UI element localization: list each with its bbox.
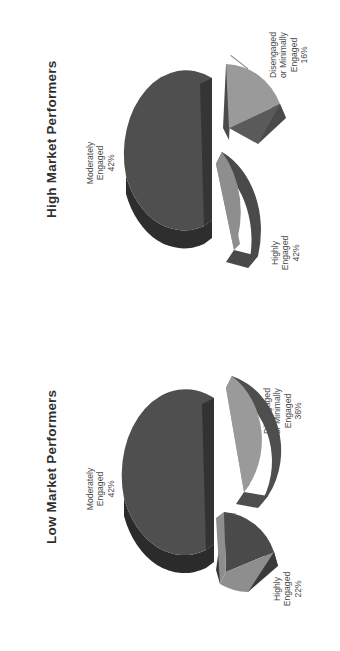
pie-svg-low <box>108 366 338 596</box>
chart-panel-low-market-performers: Low Market Performers Moderately Engaged… <box>0 326 340 651</box>
slice-label-line1: Moderately <box>85 468 95 511</box>
pie-slice-highly-high <box>216 152 261 268</box>
pie-slice-moderately-high <box>124 70 212 248</box>
chart-title-high: High Market Performers <box>44 61 59 218</box>
pie-chart-high <box>108 48 338 278</box>
pie-slice-moderately-low <box>122 389 214 573</box>
pie-chart-low <box>108 366 338 596</box>
pie-svg-high <box>108 48 338 278</box>
chart-panel-high-market-performers: High Market Performers Moderately Engage… <box>0 0 340 325</box>
pie-slice-disengaged-low <box>226 376 281 508</box>
slice-label-line1: Moderately <box>85 142 95 185</box>
pie-slice-highly-low <box>216 512 278 592</box>
chart-title-low: Low Market Performers <box>44 390 59 544</box>
slice-label-line2: Engaged <box>95 472 105 506</box>
slice-label-line2: Engaged <box>95 146 105 180</box>
pie-slice-disengaged-high <box>223 64 286 144</box>
